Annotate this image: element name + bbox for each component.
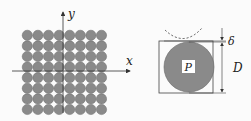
grid-circle: [33, 104, 43, 114]
grid-circle: [96, 41, 106, 51]
grid-circle: [86, 51, 96, 61]
grid-circle: [33, 41, 43, 51]
grid-circle: [65, 41, 75, 51]
grid-circle: [43, 51, 53, 61]
circle-grid: [22, 30, 106, 114]
grid-circle: [22, 51, 32, 61]
grid-circle: [65, 73, 75, 83]
grid-circle: [75, 51, 85, 61]
grid-circle: [22, 30, 32, 40]
grid-circle: [65, 51, 75, 61]
grid-circle: [22, 73, 32, 83]
grid-circle: [43, 94, 53, 104]
grid-circle: [43, 41, 53, 51]
grid-circle: [96, 94, 106, 104]
grid-circle: [86, 73, 96, 83]
grid-circle: [96, 73, 106, 83]
grid-circle: [75, 94, 85, 104]
grid-circle: [86, 83, 96, 93]
grid-circle: [33, 73, 43, 83]
grid-circle: [22, 83, 32, 93]
y-axis-label: y: [67, 7, 75, 21]
grid-circle: [22, 104, 32, 114]
diameter-label: D: [232, 61, 243, 75]
grid-circle: [65, 83, 75, 93]
grid-circle: [86, 104, 96, 114]
grid-circle: [33, 94, 43, 104]
grid-circle: [86, 41, 96, 51]
grid-circle: [96, 51, 106, 61]
grid-circle: [75, 83, 85, 93]
grid-circle: [96, 30, 106, 40]
grid-circle: [22, 94, 32, 104]
neighbor-arc-dashed: [165, 28, 202, 39]
grid-circle: [33, 83, 43, 93]
grid-circle: [65, 104, 75, 114]
grid-circle: [86, 30, 96, 40]
grid-circle: [65, 30, 75, 40]
grid-circle: [75, 104, 85, 114]
grid-circle: [43, 104, 53, 114]
x-axis-label: x: [126, 54, 133, 68]
grid-circle: [33, 51, 43, 61]
grid-circle: [65, 94, 75, 104]
grid-circle: [43, 30, 53, 40]
grid-circle: [43, 73, 53, 83]
center-label: P: [184, 61, 193, 74]
grid-circle: [75, 73, 85, 83]
grid-circle: [75, 41, 85, 51]
grid-circle: [96, 104, 106, 114]
diagram-svg: x y P δ D: [0, 0, 251, 121]
grid-circle: [33, 30, 43, 40]
grid-circle: [86, 94, 96, 104]
grid-circle: [22, 41, 32, 51]
grid-circle: [75, 30, 85, 40]
grid-circle: [43, 83, 53, 93]
grid-circle: [96, 83, 106, 93]
gap-label: δ: [228, 35, 235, 48]
diagram-canvas: x y P δ D: [0, 0, 251, 121]
